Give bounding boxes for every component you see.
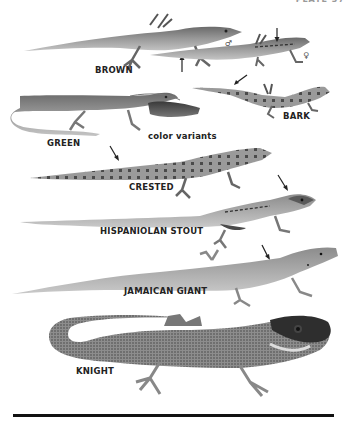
- species-label-bark: BARK: [283, 111, 310, 121]
- species-label-jamaican-giant: JAMAICAN GIANT: [124, 286, 207, 296]
- knight-anole-illustration: [49, 314, 331, 396]
- hispaniolan-stout-anole-illustration: [20, 194, 316, 248]
- species-label-knight: KNIGHT: [76, 366, 114, 376]
- species-label-crested: CRESTED: [129, 182, 174, 192]
- jamaican-giant-anole-illustration: [12, 247, 338, 306]
- green-anole-illustration: [10, 93, 200, 136]
- color-variants-note: color variants: [148, 131, 217, 141]
- lizard-illustrations: ♂ ♀: [0, 0, 349, 426]
- species-label-green: GREEN: [47, 138, 80, 148]
- species-label-brown: BROWN: [95, 65, 133, 75]
- species-label-hispaniolan-stout: HISPANIOLAN STOUT: [100, 226, 203, 236]
- bottom-rule: [13, 414, 334, 417]
- brown-anole-male-illustration: [24, 14, 242, 70]
- female-symbol-icon: ♀: [303, 51, 309, 60]
